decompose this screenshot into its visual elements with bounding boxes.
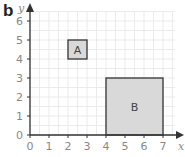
y-tick-label: 0 [16,129,23,142]
y-tick-label: 4 [16,53,23,66]
y-tick-label: 1 [16,110,23,123]
x-axis-label: x [178,140,185,153]
x-tick-label: 3 [84,140,91,153]
x-tick-label: 1 [46,140,53,153]
x-tick-label: 6 [141,140,148,153]
y-tick-label: 6 [16,15,23,28]
x-tick-label: 2 [65,140,72,153]
x-tick-label: 4 [103,140,110,153]
y-tick-label: 3 [16,72,23,85]
y-axis-label: y [17,2,25,15]
shape-label: A [74,44,82,57]
y-tick-label: 5 [16,34,23,47]
x-tick-label: 7 [160,140,167,153]
x-tick-label: 5 [122,140,129,153]
y-axis-arrow-icon [26,3,34,12]
coordinate-grid: ABxy012345670123456 [0,0,185,157]
y-tick-label: 2 [16,91,23,104]
x-axis-arrow-icon [176,131,184,139]
x-tick-label: 0 [27,140,34,153]
shape-label: B [131,101,139,114]
